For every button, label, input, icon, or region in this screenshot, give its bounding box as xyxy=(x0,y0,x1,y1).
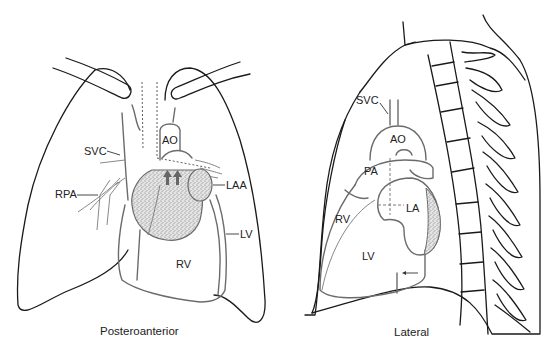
label-rv-lateral: RV xyxy=(335,213,351,225)
chest-diagram: SVC AO RPA LAA LV RV Posteroanterior xyxy=(0,0,554,355)
label-rpa: RPA xyxy=(55,188,77,200)
spine-anterior xyxy=(428,55,462,325)
posterior-ribs xyxy=(462,52,530,332)
right-clavicle xyxy=(53,58,131,98)
svc-vessel xyxy=(122,113,128,200)
lateral-panel: SVC AO PA RV LA LV Lateral xyxy=(305,15,540,338)
label-laa: LAA xyxy=(226,179,247,191)
caption-posteroanterior: Posteroanterior xyxy=(100,325,179,337)
label-pa-lateral: PA xyxy=(364,165,379,177)
left-atrial-appendage xyxy=(188,169,212,201)
label-ao-pa: AO xyxy=(162,134,178,146)
label-svc-pa: SVC xyxy=(84,145,107,157)
label-rv-pa: RV xyxy=(176,258,192,270)
label-lv-pa: LV xyxy=(240,228,253,240)
caption-lateral: Lateral xyxy=(394,326,429,338)
label-lv-lateral: LV xyxy=(362,250,375,262)
label-svc-lateral: SVC xyxy=(356,94,379,106)
la-stippled-region xyxy=(424,188,440,255)
label-la-lateral: LA xyxy=(406,202,420,214)
label-ao-lateral: AO xyxy=(390,133,406,145)
vertebrae xyxy=(432,62,484,292)
posteroanterior-panel: SVC AO RPA LAA LV RV Posteroanterior xyxy=(17,58,265,337)
